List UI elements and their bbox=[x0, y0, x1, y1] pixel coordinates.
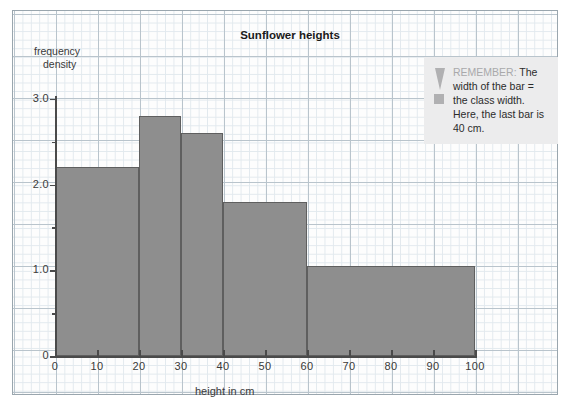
remember-callout: REMEMBER: The width of the bar = the cla… bbox=[424, 57, 558, 144]
chart-title: Sunflower heights bbox=[0, 29, 570, 41]
histogram-bar bbox=[223, 202, 307, 356]
histogram-bar bbox=[181, 133, 223, 356]
x-tick-label: 80 bbox=[377, 360, 405, 372]
callout-keyword: REMEMBER: bbox=[453, 66, 517, 78]
x-tick bbox=[391, 350, 393, 357]
x-tick bbox=[475, 350, 477, 357]
x-tick-label: 90 bbox=[419, 360, 447, 372]
y-tick-label: 0 bbox=[21, 349, 49, 361]
y-tick-label: 3.0 bbox=[21, 92, 49, 104]
histogram-figure: Sunflower heights frequency density heig… bbox=[0, 0, 570, 415]
x-tick bbox=[181, 350, 183, 357]
x-tick bbox=[223, 350, 225, 357]
exclamation-mark-icon bbox=[433, 65, 447, 135]
x-tick-label: 30 bbox=[167, 360, 195, 372]
y-minor-tick bbox=[52, 227, 57, 229]
y-tick bbox=[50, 99, 57, 101]
y-axis-tick-labels: 01.02.03.0 bbox=[17, 0, 49, 415]
y-tick-label: 1.0 bbox=[21, 263, 49, 275]
histogram-bar bbox=[139, 116, 181, 356]
x-tick-label: 10 bbox=[83, 360, 111, 372]
x-tick bbox=[97, 350, 99, 357]
y-minor-tick bbox=[52, 313, 57, 315]
histogram-bar bbox=[55, 167, 139, 356]
x-tick bbox=[433, 350, 435, 357]
x-tick-label: 100 bbox=[461, 360, 489, 372]
x-tick bbox=[349, 350, 351, 357]
histogram-bar bbox=[307, 266, 475, 356]
x-tick bbox=[265, 350, 267, 357]
y-tick bbox=[50, 185, 57, 187]
callout-text: REMEMBER: The width of the bar = the cla… bbox=[453, 65, 551, 135]
x-tick-label: 20 bbox=[125, 360, 153, 372]
x-tick bbox=[139, 350, 141, 357]
x-tick-label: 60 bbox=[293, 360, 321, 372]
x-axis-title: height in cm bbox=[195, 385, 254, 397]
y-minor-tick bbox=[52, 142, 57, 144]
x-tick-label: 40 bbox=[209, 360, 237, 372]
x-tick bbox=[307, 350, 309, 357]
x-tick-label: 70 bbox=[335, 360, 363, 372]
x-tick-label: 50 bbox=[251, 360, 279, 372]
y-tick-label: 2.0 bbox=[21, 178, 49, 190]
y-tick bbox=[50, 270, 57, 272]
y-tick bbox=[50, 356, 57, 358]
